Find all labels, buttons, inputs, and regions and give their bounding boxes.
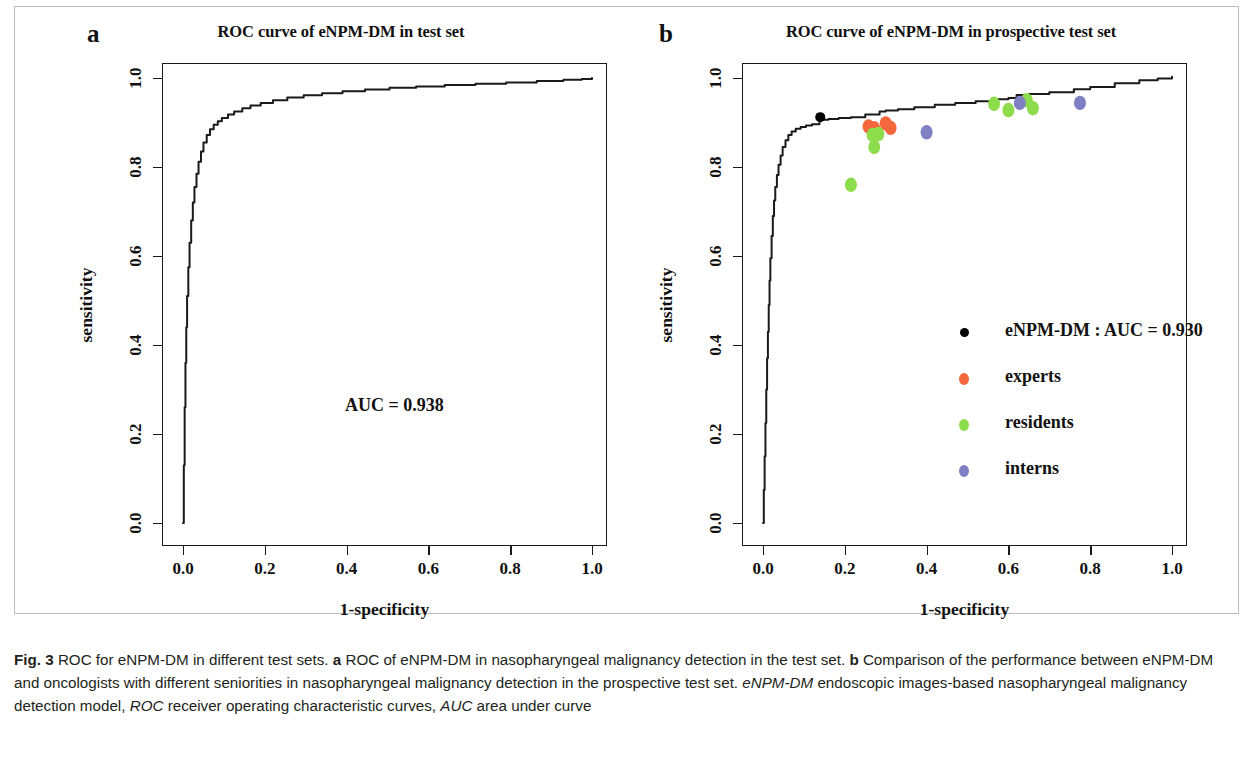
x-tick-mark [428,546,429,555]
x-tick-mark [592,546,593,555]
panel-a-auc-label: AUC = 0.938 [345,395,444,416]
y-tick-mark [153,256,162,257]
panel-b: b ROC curve of eNPM-DM in prospective te… [627,7,1239,613]
y-tick-mark [153,523,162,524]
panel-a-yaxis-title: sensitivity [76,268,97,343]
x-tick-label: 0.2 [254,559,275,579]
y-tick-mark [153,167,162,168]
y-tick-label: 0.4 [126,334,146,355]
y-tick-label: 0.6 [126,245,146,266]
y-tick-mark [153,434,162,435]
figure-frame: a ROC curve of eNPM-DM in test set 0.00.… [14,6,1239,614]
y-tick-mark [733,434,742,435]
legend-dot-icon [959,465,969,477]
y-tick-label: 0.2 [706,423,726,444]
legend-dot-icon [959,419,969,431]
x-tick-mark [1172,546,1173,555]
y-tick-label: 0.6 [706,245,726,266]
caption-abbr-roc-def: receiver operating characteristic curves… [163,697,440,714]
caption-abbr-enpmdm-term: eNPM-DM [742,674,813,691]
figure-caption: Fig. 3 ROC for eNPM-DM in different test… [14,648,1229,717]
y-tick-mark [733,345,742,346]
panel-a-roc-curve [163,64,606,545]
x-tick-mark [1090,546,1091,555]
legend-label: experts [1005,366,1061,387]
x-tick-label: 0.0 [172,559,193,579]
y-tick-label: 1.0 [706,67,726,88]
caption-panel-a-letter: a [333,651,341,668]
y-tick-label: 0.2 [126,423,146,444]
y-tick-mark [153,345,162,346]
y-tick-mark [733,78,742,79]
y-tick-mark [733,523,742,524]
legend-label: residents [1005,412,1074,433]
caption-abbr-roc-term: ROC [130,697,164,714]
panel-b-xaxis-title: 1-specificity [742,599,1187,620]
legend-label: eNPM-DM : AUC = 0.930 [1005,320,1203,341]
panel-a-title: ROC curve of eNPM-DM in test set [15,22,627,42]
panel-a-xaxis-title: 1-specificity [162,599,607,620]
legend-label: interns [1005,458,1059,479]
caption-figure-label: Fig. 3 [14,651,54,668]
legend-dot-icon [959,373,969,385]
y-tick-label: 0.8 [126,156,146,177]
y-tick-label: 0.0 [126,512,146,533]
x-tick-label: 0.8 [500,559,521,579]
caption-main-text: ROC for eNPM-DM in different test sets. [54,651,333,668]
panel-b-plot-area: eNPM-DM : AUC = 0.930expertsresidentsint… [742,63,1187,546]
x-tick-label: 1.0 [581,559,602,579]
legend-dot-icon [960,328,969,337]
y-tick-mark [733,256,742,257]
x-tick-mark [183,546,184,555]
y-tick-label: 0.8 [706,156,726,177]
y-tick-label: 1.0 [126,67,146,88]
panel-a: a ROC curve of eNPM-DM in test set 0.00.… [15,7,627,613]
y-tick-mark [733,167,742,168]
x-tick-label: 0.4 [916,559,937,579]
x-tick-label: 0.6 [998,559,1019,579]
panel-b-yaxis-title: sensitivity [656,268,677,343]
x-tick-mark [763,546,764,555]
x-tick-label: 0.0 [752,559,773,579]
x-tick-label: 0.8 [1080,559,1101,579]
x-tick-mark [1008,546,1009,555]
x-tick-label: 1.0 [1161,559,1182,579]
x-tick-label: 0.2 [834,559,855,579]
caption-panel-a-text: ROC of eNPM-DM in nasopharyngeal maligna… [341,651,849,668]
x-tick-mark [845,546,846,555]
panel-b-title: ROC curve of eNPM-DM in prospective test… [627,22,1239,42]
y-tick-mark [153,78,162,79]
y-tick-label: 0.0 [706,512,726,533]
panel-a-plot-area [162,63,607,546]
y-tick-label: 0.4 [706,334,726,355]
x-tick-mark [927,546,928,555]
x-tick-label: 0.6 [418,559,439,579]
x-tick-mark [347,546,348,555]
x-tick-mark [510,546,511,555]
x-tick-label: 0.4 [336,559,357,579]
x-tick-mark [265,546,266,555]
caption-panel-b-letter: b [849,651,858,668]
caption-abbr-auc-term: AUC [440,697,472,714]
caption-abbr-auc-def: area under curve [472,697,591,714]
